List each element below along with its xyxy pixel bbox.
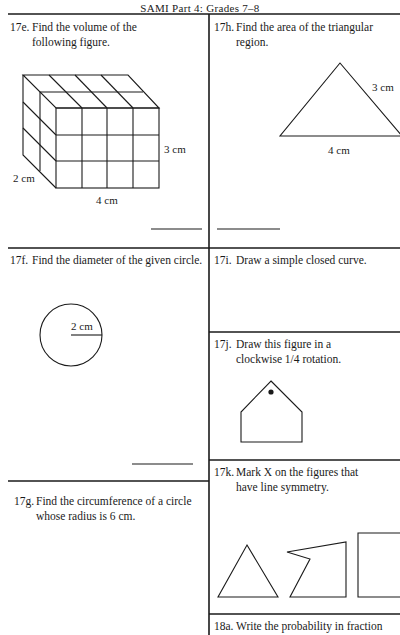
symmetry-irregular-polygon bbox=[287, 542, 346, 597]
base-label: 4 cm bbox=[328, 144, 350, 156]
question-number: 17h. bbox=[214, 20, 236, 35]
question-17j: 17j.Draw this figure in a clockwise 1/4 … bbox=[214, 337, 400, 367]
question-number: 17i. bbox=[214, 253, 236, 268]
question-number: 17f. bbox=[10, 253, 32, 268]
question-17f: 17f.Find the diameter of the given circl… bbox=[10, 253, 208, 268]
side-label: 3 cm bbox=[372, 81, 394, 93]
question-text-line1: Draw a simple closed curve. bbox=[236, 254, 367, 266]
question-number: 17k. bbox=[214, 465, 236, 480]
question-text-line1: Find the diameter of the given circle. bbox=[32, 254, 202, 266]
question-text-line1: Draw this figure in a bbox=[236, 338, 331, 350]
radius-label: 2 cm bbox=[71, 320, 93, 332]
worksheet-drawing bbox=[0, 0, 400, 635]
question-text-line1: Find the volume of the bbox=[32, 21, 137, 33]
rectangular-prism-figure bbox=[23, 75, 159, 188]
question-17e: 17e.Find the volume of the following fig… bbox=[10, 20, 205, 50]
question-text-line2: clockwise 1/4 rotation. bbox=[214, 352, 400, 367]
triangle-figure bbox=[280, 63, 400, 136]
question-text-line2: whose radius is 6 cm. bbox=[14, 509, 206, 524]
question-number: 18a. bbox=[214, 619, 236, 634]
symmetry-triangle bbox=[218, 545, 278, 597]
question-17i: 17i.Draw a simple closed curve. bbox=[214, 253, 400, 268]
question-text-line2: following figure. bbox=[10, 35, 205, 50]
question-18a: 18a.Write the probability in fraction bbox=[214, 619, 400, 634]
width-label: 4 cm bbox=[96, 194, 118, 206]
question-text-line1: Mark X on the figures that bbox=[236, 466, 358, 478]
question-17h: 17h.Find the area of the triangular regi… bbox=[214, 20, 400, 50]
orientation-dot bbox=[268, 389, 273, 394]
question-number: 17j. bbox=[214, 337, 236, 352]
question-text-line2: region. bbox=[214, 35, 400, 50]
question-text-line1: Find the circumference of a circle bbox=[36, 495, 192, 507]
question-17g: 17g.Find the circumference of a circle w… bbox=[14, 494, 206, 524]
question-number: 17g. bbox=[14, 494, 36, 509]
symmetry-square bbox=[358, 533, 400, 597]
question-text-line1: Find the area of the triangular bbox=[236, 21, 373, 33]
question-text-line2: have line symmetry. bbox=[214, 480, 400, 495]
depth-label: 2 cm bbox=[13, 172, 35, 184]
question-text-line1: Write the probability in fraction bbox=[236, 620, 382, 632]
height-label: 3 cm bbox=[164, 143, 186, 155]
question-number: 17e. bbox=[10, 20, 32, 35]
question-17k: 17k.Mark X on the figures that have line… bbox=[214, 465, 400, 495]
